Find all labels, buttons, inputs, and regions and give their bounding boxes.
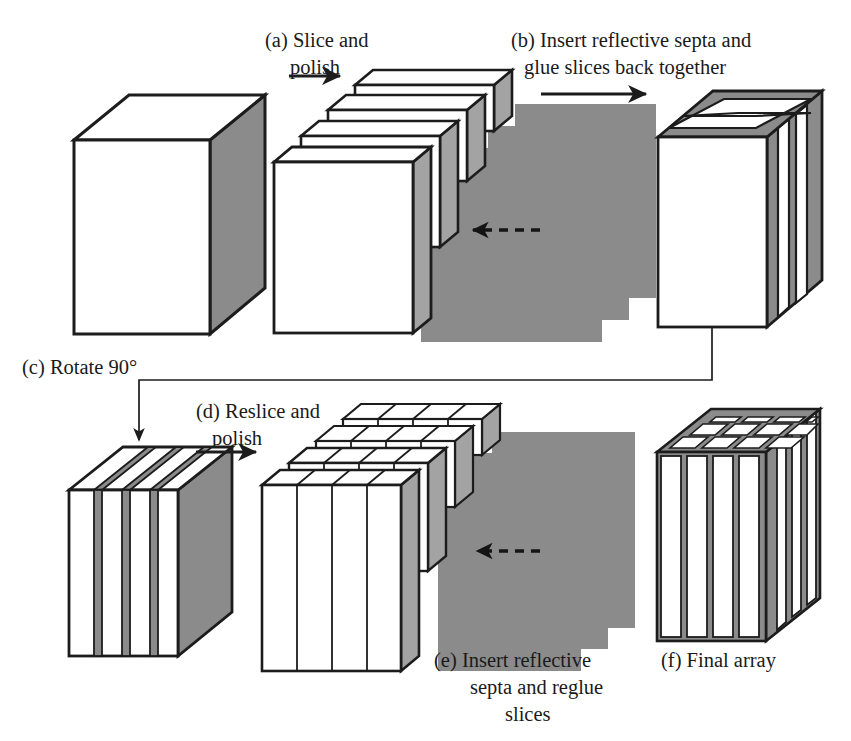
final-front-column-4: [739, 456, 759, 637]
final-side-stripe-3: [807, 412, 816, 605]
reglued-side-stripe-2: [796, 105, 807, 303]
caption-b-line1: (b) Insert reflective septa and: [511, 29, 751, 52]
final-array-f: [657, 409, 820, 641]
caption-d-line1: (d) Reslice and: [196, 400, 320, 423]
slice-slab-1-front: [274, 162, 413, 333]
reglued-block-front-face: [658, 137, 767, 327]
raw-block: [74, 95, 265, 334]
final-side-stripe-1: [777, 436, 786, 630]
caption-e-line2: septa and reglue: [470, 676, 603, 699]
top-cell-r1c3: [774, 417, 805, 422]
resliced-slab-2-side: [428, 448, 446, 571]
resliced-stack-d: [262, 404, 635, 671]
slice-slab-2-top: [301, 121, 458, 136]
figure-root: (a) Slice and polish (b) Insert reflecti…: [0, 0, 851, 741]
raw-block-front-face: [74, 140, 210, 334]
caption-e-line1: (e) Insert reflective: [434, 649, 591, 672]
caption-c-line1: (c) Rotate 90°: [22, 356, 137, 379]
resliced-slab-1: [262, 470, 419, 671]
rotated-front-septum-3: [150, 490, 158, 656]
slice-slab-3-top: [328, 95, 485, 110]
rotated-front-septum-2: [122, 490, 130, 656]
slice-slab-2-side: [440, 121, 458, 247]
reglued-side-stripe-1: [778, 119, 789, 317]
caption-f-line1: (f) Final array: [661, 649, 777, 672]
final-front-column-2: [687, 456, 707, 637]
sliced-stack-a: [274, 70, 656, 342]
top-cell-r1c1: [710, 417, 741, 422]
final-front-column-3: [713, 456, 733, 637]
rotated-block-c: [69, 447, 232, 656]
fabrication-diagram: (a) Slice and polish (b) Insert reflecti…: [0, 0, 851, 741]
slice-slab-1-top: [274, 147, 431, 162]
slice-slab-1-side: [413, 147, 431, 333]
caption-e-line3: slices: [505, 703, 551, 725]
final-front-column-1: [661, 456, 681, 637]
slice-slab-4-top: [355, 70, 512, 85]
top-cell-r1c2: [742, 417, 773, 422]
caption-a-line1: (a) Slice and: [265, 29, 369, 52]
reglued-block-b: [658, 91, 822, 327]
resliced-slab-1-side: [401, 470, 419, 671]
rotated-front-septum-1: [94, 490, 102, 656]
caption-b-line2: glue slices back together: [524, 56, 726, 79]
final-side-stripe-2: [792, 424, 801, 617]
slice-slab-1: [274, 147, 431, 333]
